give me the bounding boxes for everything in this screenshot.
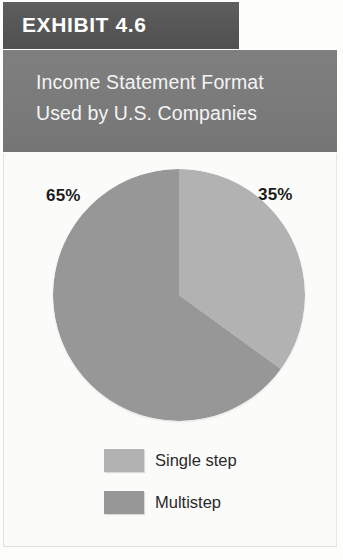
legend-item-multistep: Multistep [104, 491, 324, 514]
exhibit-number-banner: EXHIBIT 4.6 [3, 2, 239, 49]
pie-chart [53, 169, 305, 421]
exhibit-figure: EXHIBIT 4.6 Income Statement Format Used… [0, 0, 343, 560]
legend-item-single-step: Single step [104, 449, 324, 472]
chart-legend: Single step Multistep [104, 449, 324, 533]
legend-swatch-single-step [104, 449, 144, 472]
exhibit-title: Income Statement Format Used by U.S. Com… [36, 67, 326, 129]
legend-swatch-multistep [104, 491, 144, 514]
legend-label-multistep: Multistep [155, 491, 221, 514]
exhibit-title-line-1: Income Statement Format [36, 67, 326, 98]
pie-svg [53, 169, 305, 421]
exhibit-title-banner: Income Statement Format Used by U.S. Com… [3, 50, 337, 152]
chart-panel: 65% 35% Single step Multistep [3, 153, 337, 547]
pie-circle [53, 169, 305, 421]
exhibit-title-line-2: Used by U.S. Companies [36, 98, 326, 129]
exhibit-number-label: EXHIBIT 4.6 [22, 12, 146, 38]
legend-label-single-step: Single step [155, 449, 237, 472]
